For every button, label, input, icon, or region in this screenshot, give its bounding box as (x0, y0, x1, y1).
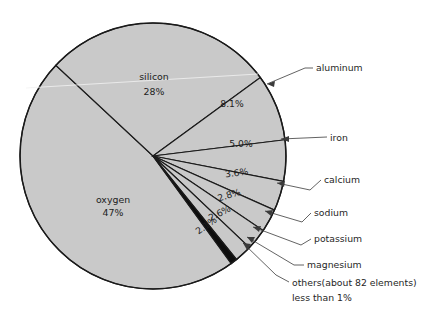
callout-label-potassium: potassium (314, 233, 362, 244)
leader-line-aluminum (267, 68, 305, 84)
leader-stub-potassium (301, 239, 311, 245)
leader-stub-calcium (310, 180, 321, 190)
callout-label-sodium: sodium (314, 207, 348, 218)
callout-label-magnesium: magnesium (307, 259, 362, 270)
callout-label-iron: iron (330, 132, 348, 143)
leader-line-potassium (253, 227, 301, 245)
slice-label-silicon-value: 28% (144, 86, 165, 97)
leader-stub-sodium (302, 213, 311, 222)
slice-label-iron-value: 5.0% (229, 138, 253, 149)
pie-chart-canvas: oxygen 47% silicon 28% 8.1% 5.0% 3.6% 2.… (0, 0, 429, 315)
pie-slices-group (20, 23, 286, 289)
callout-label-aluminum: aluminum (316, 62, 363, 73)
leader-line-magnesium (247, 237, 294, 265)
slice-label-aluminum-value: 8.1% (220, 98, 244, 109)
leader-stub-others (276, 275, 289, 282)
slice-label-oxygen-value: 47% (103, 207, 124, 218)
pie-chart-figure: oxygen 47% silicon 28% 8.1% 5.0% 3.6% 2.… (0, 0, 429, 315)
slice-label-oxygen-name: oxygen (96, 194, 130, 205)
slice-label-silicon-name: silicon (139, 71, 169, 82)
callout-label-others-note: less than 1% (292, 292, 352, 303)
callout-label-others: others(about 82 elements) (292, 277, 417, 288)
callout-label-calcium: calcium (324, 174, 360, 185)
